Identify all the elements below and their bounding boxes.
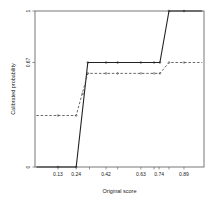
x-axis: 0.130.240.420.630.740.89 — [53, 167, 189, 177]
y-tick-label: 1 — [25, 9, 31, 12]
y-tick-label: 0.67 — [25, 57, 31, 67]
x-tick-label: 0.24 — [71, 171, 81, 177]
x-axis-label: Original score — [103, 188, 137, 194]
x-tick-label: 0.13 — [53, 171, 63, 177]
x-tick-label: 0.89 — [179, 171, 189, 177]
y-tick-label: 0 — [25, 165, 31, 168]
plot-frame — [35, 11, 204, 167]
series-line-solid — [36, 11, 202, 167]
series-layer — [36, 10, 202, 168]
y-axis: 00.671 — [25, 9, 35, 168]
data-point — [153, 73, 155, 75]
y-axis-label: Calibrated probability — [10, 63, 16, 115]
x-tick-label: 0.63 — [136, 171, 146, 177]
data-point — [140, 73, 142, 75]
x-tick-label: 0.74 — [154, 171, 164, 177]
x-tick-label: 0.42 — [101, 171, 111, 177]
series-line-dashed — [36, 63, 202, 116]
calibration-chart: 0.130.240.420.630.740.89 00.671 Original… — [0, 0, 214, 200]
